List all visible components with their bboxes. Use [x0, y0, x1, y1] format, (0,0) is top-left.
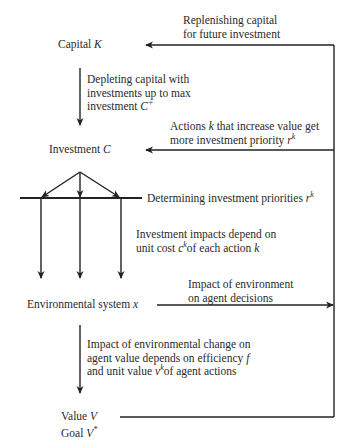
priority-line1: Actions k that increase value get — [170, 120, 319, 134]
env-change-line3-b: of agent actions — [164, 365, 237, 377]
env-change-line2-sym: f — [246, 352, 249, 364]
impacts-label: Investment impacts depend on unit cost c… — [136, 228, 276, 255]
capital-node: Capital K — [58, 38, 102, 52]
environment-node: Environmental system x — [27, 298, 138, 312]
determine-label: Determining investment priorities rk — [147, 192, 314, 206]
priority-line2-text: more investment priority — [170, 134, 284, 146]
deplete-label: Depleting capital with investments up to… — [87, 73, 191, 114]
deplete-line1: Depleting capital with — [87, 73, 191, 87]
capital-label: Capital — [58, 38, 91, 50]
replenish-line2: for future investment — [183, 28, 280, 42]
env-change-line3: and unit value vkof agent actions — [87, 365, 251, 379]
deplete-line3: investment C+ — [87, 100, 191, 114]
impacts-line2-a: unit cost — [136, 242, 175, 254]
replenish-label: Replenishing capital for future investme… — [183, 14, 280, 41]
priority-line1-b: that increase value get — [217, 120, 320, 132]
impacts-line1: Investment impacts depend on — [136, 228, 276, 242]
env-change-label: Impact of environmental change on agent … — [87, 338, 251, 379]
investment-label: Investment — [49, 143, 100, 155]
diagram-connectors — [0, 0, 349, 448]
env-impact-line2: on agent decisions — [188, 292, 293, 306]
environment-label: Environmental system — [27, 298, 130, 310]
env-change-line3-a: and unit value — [87, 365, 152, 377]
impacts-line2: unit cost ckof each action k — [136, 242, 276, 256]
value-label: Value — [61, 410, 87, 422]
investment-symbol: C — [103, 143, 111, 155]
env-impact-label: Impact of environment on agent decisions — [188, 278, 293, 305]
env-change-line1: Impact of environmental change on — [87, 338, 251, 352]
value-node: Value V — [61, 410, 97, 424]
environment-symbol: x — [133, 298, 138, 310]
determine-sup: k — [310, 190, 314, 199]
deplete-line2: investments up to max — [87, 87, 191, 101]
deplete-sym: C — [140, 100, 148, 112]
env-change-line2-a: agent value depends on efficiency — [87, 352, 243, 364]
capital-symbol: K — [94, 38, 102, 50]
impacts-line2-sym2: k — [254, 242, 259, 254]
env-change-line2: agent value depends on efficiency f — [87, 352, 251, 366]
priority-fan — [20, 172, 142, 278]
priority-line1-sym: k — [209, 120, 214, 132]
priority-line2: more investment priority rk — [170, 134, 319, 148]
priority-line1-a: Actions — [170, 120, 206, 132]
goal-sup: * — [93, 425, 97, 434]
goal-label: Goal — [61, 427, 83, 439]
investment-node: Investment C — [49, 143, 111, 157]
impacts-line2-b: of each action — [187, 242, 252, 254]
priority-line2-sup: k — [292, 132, 296, 141]
value-symbol: V — [90, 410, 97, 422]
deplete-line3-text: investment — [87, 100, 137, 112]
env-impact-line1: Impact of environment — [188, 278, 293, 292]
deplete-sup: + — [148, 98, 153, 107]
replenish-line1: Replenishing capital — [183, 14, 280, 28]
determine-text: Determining investment priorities — [147, 192, 303, 204]
priority-label: Actions k that increase value get more i… — [170, 120, 319, 147]
goal-node: Goal V* — [61, 427, 97, 441]
